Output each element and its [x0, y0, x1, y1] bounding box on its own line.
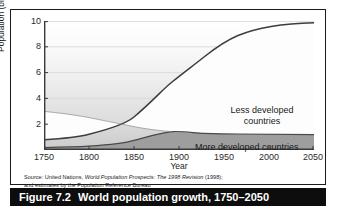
figure-title: World population growth, 1750–2050 — [78, 191, 269, 203]
chart-panel: Population (billions) 10 8 6 4 2 — [10, 9, 326, 185]
y-tick-4: 4 — [19, 94, 41, 103]
source-note: Source: United Nations, World Population… — [24, 174, 324, 189]
more-developed-label: More developed countries — [195, 142, 325, 152]
y-axis-ticks: 10 8 6 4 2 — [15, 10, 41, 170]
source-line-1: Source: United Nations, World Population… — [24, 174, 324, 182]
y-tick-6: 6 — [19, 68, 41, 77]
chart-svg — [44, 21, 314, 150]
y-axis-label: Population (billions) — [0, 0, 6, 52]
y-tick-2: 2 — [19, 120, 41, 129]
y-tick-8: 8 — [19, 42, 41, 51]
figure-container: Population (billions) 10 8 6 4 2 — [0, 0, 337, 215]
figure-caption-bar: Figure 7.2 World population growth, 1750… — [10, 188, 326, 206]
y-tick-10: 10 — [19, 17, 41, 26]
figure-number: Figure 7.2 — [19, 191, 71, 203]
x-axis-label: Year — [44, 161, 314, 171]
plot-area — [44, 21, 314, 150]
less-developed-label-line2: countries — [216, 116, 308, 127]
less-developed-label: Less developed countries — [216, 105, 308, 126]
source-prefix: Source: United Nations, — [24, 174, 85, 180]
source-title: World Population Prospects: The 1998 Rev… — [85, 174, 204, 180]
source-year: (1998); — [203, 174, 222, 180]
less-developed-label-line1: Less developed — [216, 105, 308, 116]
